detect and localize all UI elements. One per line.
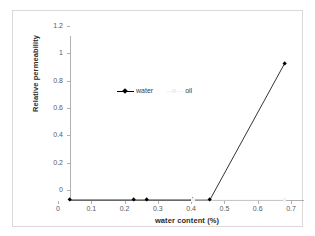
x-axis-title: water content (%) <box>70 216 304 225</box>
x-tick-label: 0.7 <box>280 205 302 213</box>
chart-figure: 00.20.40.60.811.2 00.10.20.30.40.50.60.7… <box>0 0 315 236</box>
x-tick-mark <box>258 201 259 204</box>
x-tick-label: 0 <box>47 205 69 213</box>
data-point-water <box>68 198 73 203</box>
legend-item-oil[interactable]: oil <box>166 87 192 95</box>
y-tick-label: 0.4 <box>41 131 63 139</box>
series-lines <box>70 36 303 200</box>
legend-label-oil: oil <box>185 87 192 95</box>
x-tick-label: 0.1 <box>80 205 102 213</box>
x-tick-mark <box>158 201 159 204</box>
x-tick-mark <box>291 201 292 204</box>
x-tick-mark <box>125 201 126 204</box>
data-point-water <box>131 198 136 203</box>
x-tick-mark <box>224 201 225 204</box>
x-tick-label: 0.4 <box>180 205 202 213</box>
y-tick-label: 0 <box>41 186 63 194</box>
legend-label-water: water <box>136 87 153 95</box>
y-tick-label: 0.8 <box>41 77 63 85</box>
data-point-oil <box>283 198 286 201</box>
y-tick-label: 1 <box>41 49 63 57</box>
legend-swatch-water <box>117 88 134 95</box>
y-tick-mark <box>67 26 70 27</box>
x-tick-label: 0.2 <box>114 205 136 213</box>
x-tick-label: 0.6 <box>247 205 269 213</box>
plot-area <box>70 36 303 200</box>
legend-item-water[interactable]: water <box>117 87 153 95</box>
y-axis-title: Relative permeability <box>31 15 40 133</box>
data-point-water <box>207 198 212 203</box>
x-tick-mark <box>58 201 59 204</box>
y-tick-label: 1.2 <box>41 22 63 30</box>
legend-swatch-oil <box>166 88 183 95</box>
chart-frame: 00.20.40.60.811.2 00.10.20.30.40.50.60.7… <box>12 10 303 227</box>
data-point-oil <box>191 198 194 201</box>
x-tick-mark <box>91 201 92 204</box>
x-tick-label: 0.5 <box>213 205 235 213</box>
y-tick-label: 0.6 <box>41 104 63 112</box>
x-tick-label: 0.3 <box>147 205 169 213</box>
series-line-water <box>70 63 285 200</box>
chart-legend: water oil <box>117 87 192 95</box>
y-tick-label: 0.2 <box>41 159 63 167</box>
data-point-water <box>144 198 149 203</box>
